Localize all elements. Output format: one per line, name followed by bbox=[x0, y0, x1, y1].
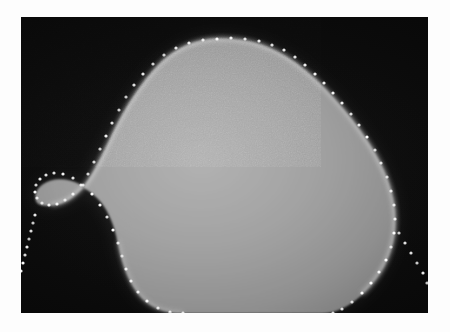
frame-bottom-edge bbox=[21, 312, 428, 313]
figure-root bbox=[0, 0, 450, 332]
frame-top-edge bbox=[21, 17, 428, 18]
image-frame bbox=[21, 17, 428, 313]
specimen-shape bbox=[21, 17, 428, 313]
specimen-layer bbox=[21, 17, 428, 313]
